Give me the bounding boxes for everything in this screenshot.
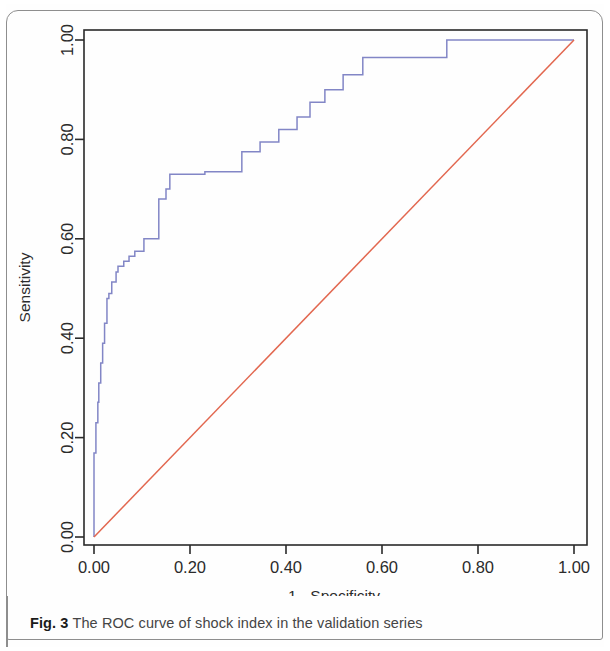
- roc-chart: 0.000.200.400.600.801.000.000.200.400.60…: [0, 0, 610, 596]
- x-axis-tick-label: 0.40: [270, 558, 302, 576]
- x-axis-tick-label: 0.80: [462, 558, 494, 576]
- scan-page-edge: [6, 596, 8, 647]
- figure-caption-label: Fig. 3: [30, 615, 68, 631]
- y-axis-tick-label: 0.60: [58, 223, 76, 255]
- x-axis-tick-label: 0.00: [78, 558, 110, 576]
- figure-caption: Fig. 3The ROC curve of shock index in th…: [30, 614, 590, 632]
- x-axis-tick-label: 1.00: [558, 558, 590, 576]
- y-axis-tick-label: 0.00: [58, 521, 76, 553]
- y-axis-tick-label: 0.80: [58, 123, 76, 155]
- y-axis-tick-label: 1.00: [58, 24, 76, 56]
- reference-diagonal-line: [94, 40, 574, 537]
- x-axis-tick-label: 0.60: [366, 558, 398, 576]
- x-axis-title: 1 - Specificity: [288, 587, 380, 596]
- x-axis-tick-label: 0.20: [174, 558, 206, 576]
- figure-caption-text: The ROC curve of shock index in the vali…: [72, 615, 422, 631]
- y-axis-title: Sensitivity: [16, 252, 33, 322]
- roc-plot-area: 0.000.200.400.600.801.000.000.200.400.60…: [0, 0, 610, 596]
- y-axis-tick-label: 0.20: [58, 422, 76, 454]
- y-axis-tick-label: 0.40: [58, 322, 76, 354]
